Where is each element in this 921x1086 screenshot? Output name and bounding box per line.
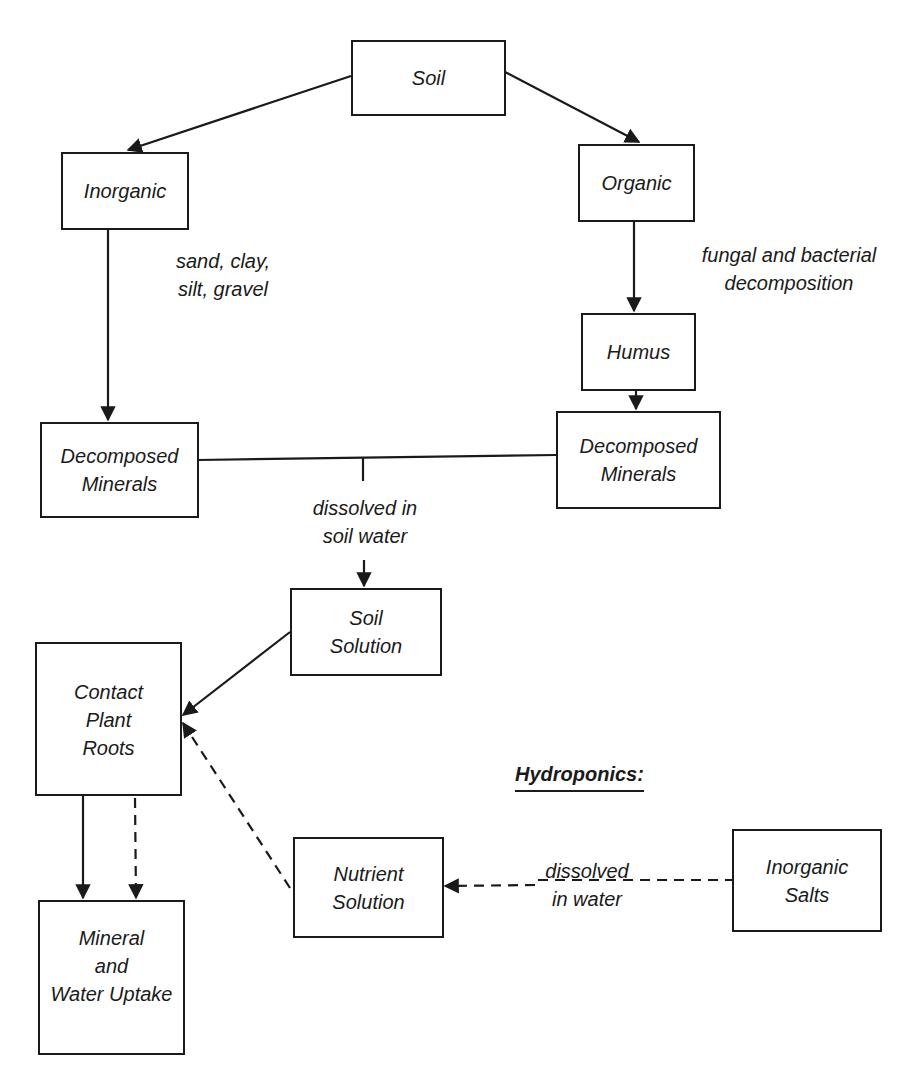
node-decomposed-minerals-inorganic: Decomposed Minerals (40, 422, 199, 518)
arrow-soil-solution-to-roots (183, 632, 290, 715)
node-soil-solution: Soil Solution (290, 588, 442, 676)
node-mineral-water-uptake: Mineral and Water Uptake (38, 900, 185, 1055)
node-inorganic-salts: Inorganic Salts (732, 829, 882, 932)
arrow-roots-to-uptake-hydro (135, 798, 136, 898)
arrow-soil-to-inorganic (128, 76, 351, 150)
label-inorganic-examples: sand, clay, silt, gravel (158, 247, 288, 303)
section-heading-hydroponics: Hydroponics: (515, 763, 644, 792)
arrow-soil-to-organic (505, 72, 639, 142)
arrow-nutrient-to-roots (183, 723, 290, 888)
node-soil: Soil (351, 40, 506, 116)
node-humus: Humus (581, 313, 696, 391)
label-organic-process: fungal and bacterial decomposition (680, 241, 898, 297)
node-nutrient-solution: Nutrient Solution (293, 837, 444, 938)
arrow-salts-to-nutrient (445, 885, 535, 886)
node-decomposed-minerals-organic: Decomposed Minerals (556, 411, 721, 509)
label-dissolved-in-water: dissolved in water (535, 857, 639, 913)
label-dissolved-soil-water: dissolved in soil water (298, 494, 432, 550)
node-inorganic: Inorganic (61, 152, 189, 230)
join-line-decomposed (198, 455, 556, 460)
soil-nutrient-flow-diagram: Soil Inorganic Organic Humus Decomposed … (0, 0, 921, 1086)
node-contact-plant-roots: Contact Plant Roots (35, 642, 182, 796)
node-organic: Organic (578, 144, 695, 222)
